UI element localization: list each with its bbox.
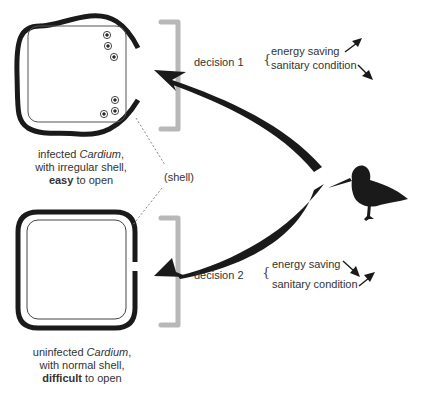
shorebird-icon <box>328 166 408 221</box>
decision-1-factor-sanitary: sanitary condition <box>271 59 357 72</box>
decision-2-label: decision 2 <box>194 269 244 282</box>
irregular-shell-outline <box>17 16 138 135</box>
decision-1-arrow <box>170 80 322 172</box>
dotted-pointer-top <box>136 118 165 165</box>
decision-2-factor-energy: energy saving <box>272 258 341 271</box>
infected-clam <box>17 16 138 135</box>
caption-line-3: difficult to open <box>22 372 142 385</box>
infected-clam-caption: infected Cardium, with irregular shell, … <box>26 148 136 187</box>
uninfected-clam <box>18 212 135 328</box>
shell-label: (shell) <box>164 171 194 184</box>
caption-line-1: infected Cardium, <box>26 148 136 161</box>
parasite-cysts <box>100 31 118 117</box>
caption-line-3: easy to open <box>26 174 136 187</box>
normal-shell-outline <box>18 212 135 328</box>
decision-1-label: decision 1 <box>194 56 244 69</box>
caption-line-1: uninfected Cardium, <box>22 346 142 359</box>
decision-2-factor-sanitary: sanitary condition <box>272 278 358 291</box>
dotted-pointer-bottom <box>132 188 162 226</box>
uninfected-clam-caption: uninfected Cardium, with normal shell, d… <box>22 346 142 385</box>
decision-1-factor-energy: energy saving <box>271 45 340 58</box>
inner-body-outline <box>28 26 126 122</box>
caption-line-2: with normal shell, <box>22 359 142 372</box>
caption-line-2: with irregular shell, <box>26 161 136 174</box>
inner-body-outline <box>27 220 126 319</box>
decision-2-brace: { <box>262 265 270 280</box>
arrow-down-icon <box>350 266 360 277</box>
decision-2-arrowhead <box>154 258 188 277</box>
outcome-arrows <box>343 38 375 286</box>
